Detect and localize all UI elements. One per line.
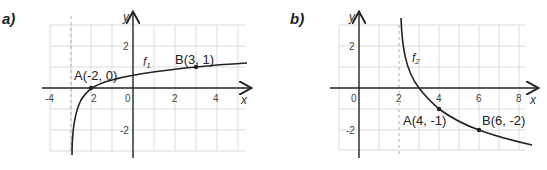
chart-b: 0 2 4 6 8 2 -2 x y A(4, -1) B(6, -2) f2 <box>330 10 537 158</box>
tick-b-x1: 2 <box>396 93 402 104</box>
label-a-B: B(3, 1) <box>175 52 214 67</box>
label-b-B: B(6, -2) <box>482 113 525 128</box>
tick-a-x3: 2 <box>172 93 178 104</box>
x-label-a: x <box>240 93 248 107</box>
tick-b-x3: 6 <box>476 93 482 104</box>
y-label-a: y <box>122 10 130 24</box>
point-b-A <box>437 107 441 111</box>
label-a-A: A(-2, 0) <box>74 68 117 83</box>
tick-b-y1: -2 <box>346 125 355 136</box>
tick-a-y1: -2 <box>120 125 129 136</box>
label-f1: f1 <box>143 55 151 70</box>
tick-a-x0: -4 <box>45 93 54 104</box>
charts: -4 2 0 2 4 2 -2 x y A(-2, 0) B(3, 1) f1 … <box>0 0 547 170</box>
tick-b-x0: 0 <box>351 93 357 104</box>
label-b-A: A(4, -1) <box>403 113 446 128</box>
tick-b-y0: 2 <box>349 41 355 52</box>
point-a-A <box>89 86 93 90</box>
x-label-b: x <box>529 93 537 107</box>
tick-b-x2: 4 <box>436 93 442 104</box>
y-label-b: y <box>348 10 356 24</box>
chart-a: -4 2 0 2 4 2 -2 x y A(-2, 0) B(3, 1) f1 <box>42 10 250 158</box>
tick-a-x1: 2 <box>91 93 97 104</box>
tick-b-x4: 8 <box>516 93 522 104</box>
tick-a-x2: 0 <box>125 93 131 104</box>
point-b-B <box>477 128 481 132</box>
tick-a-x4: 4 <box>213 93 219 104</box>
tick-a-y0: 2 <box>123 41 129 52</box>
